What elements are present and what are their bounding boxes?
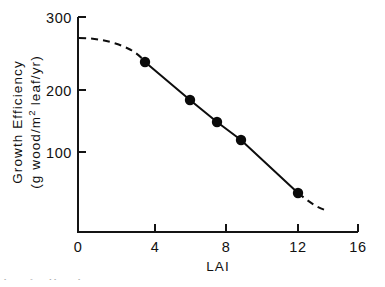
chart-canvas: 300 200 100 0 4 8 12 16 LAI Growth Effic… (0, 0, 385, 287)
curve-dashed-low-lai (79, 38, 145, 62)
curve-solid-fit (145, 62, 298, 193)
y-axis-title-line1: Growth Efficiency (10, 60, 25, 184)
data-point-5 (293, 188, 303, 198)
data-point-3 (212, 117, 222, 127)
x-tick-label-0: 0 (74, 239, 83, 255)
y-tick-label-200: 200 (46, 83, 72, 99)
y-tick-label-100: 100 (46, 145, 72, 161)
y-axis-title-line2: (g wood/m2 leaf/yr) (26, 55, 44, 189)
cropped-caption-text: partially cropped caption line (4, 279, 381, 280)
y-axis-title: Growth Efficiency (g wood/m2 leaf/yr) (10, 55, 43, 189)
y-axis-title-line2-suffix: leaf/yr) (28, 55, 43, 110)
data-point-2 (185, 95, 195, 105)
cropped-caption-strip: partially cropped caption line (0, 279, 385, 287)
y-tick-label-300: 300 (46, 10, 72, 26)
data-point-1 (140, 57, 150, 67)
y-axis-title-line2-prefix: (g wood/m (28, 116, 43, 189)
figure-growth-efficiency-vs-lai: 300 200 100 0 4 8 12 16 LAI Growth Effic… (0, 0, 385, 287)
x-axis-ticks (78, 224, 358, 232)
x-tick-labels: 0 4 8 12 16 (74, 239, 367, 255)
x-tick-label-8: 8 (222, 239, 231, 255)
x-axis-title: LAI (206, 259, 230, 274)
data-point-4 (236, 135, 246, 145)
x-tick-label-16: 16 (349, 239, 366, 255)
x-tick-label-12: 12 (289, 239, 306, 255)
y-tick-labels: 300 200 100 (46, 10, 72, 161)
x-tick-label-4: 4 (151, 239, 160, 255)
